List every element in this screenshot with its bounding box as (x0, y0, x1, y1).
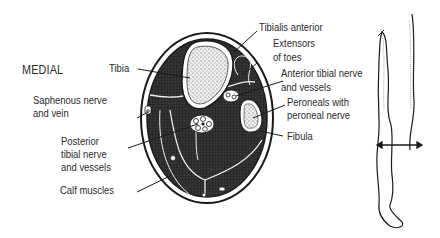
posterior-vessels (190, 115, 214, 133)
posterior-tibial-label-line2: tibial nerve (61, 148, 107, 161)
peroneals-label-line2: peroneal nerve (287, 109, 350, 122)
peroneals-label-line1: Peroneals with (287, 96, 349, 109)
posterior-tibial-label-line1: Posterior (61, 135, 99, 148)
anterior-tibial-label-line2: and vessels (281, 81, 331, 94)
leg-illustration (377, 14, 414, 228)
posterior-tibial-label-line3: and vessels (61, 161, 111, 174)
extensors-label-line1: Extensors (273, 37, 315, 50)
saphenous-label-line1: Saphenous nerve (33, 94, 107, 107)
extensors-label-line2: of toes (273, 51, 301, 64)
saphenous-label-line2: and vein (33, 107, 69, 120)
tibialis-anterior-label: Tibialis anterior (259, 21, 323, 34)
anterior-tibial-label-line1: Anterior tibial nerve (281, 67, 362, 80)
medial-label: MEDIAL (22, 64, 63, 77)
calf-muscles-label: Calf muscles (60, 184, 114, 197)
tibia-label: Tibia (109, 62, 129, 75)
fibula-label: Fibula (287, 130, 313, 143)
